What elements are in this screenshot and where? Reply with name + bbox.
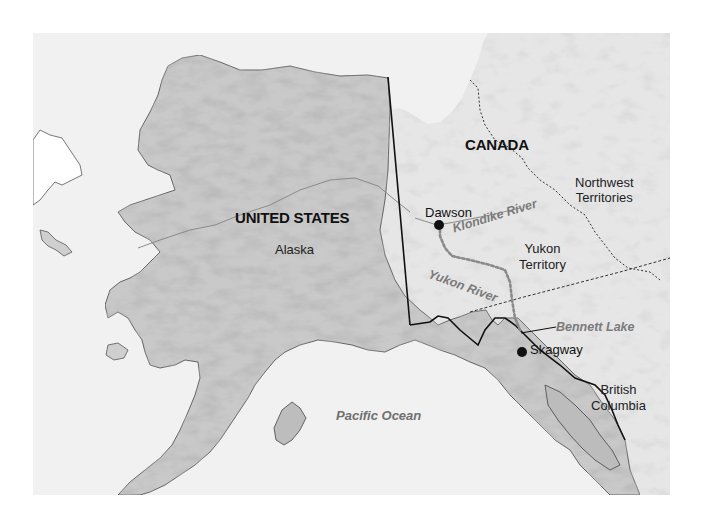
label-nwt: Northwest Territories [575,176,634,204]
label-yukon-territory: Yukon Territory [519,242,566,271]
label-yukon-line2: Territory [519,258,566,271]
russia-coast [33,130,82,205]
map-graphic [33,33,670,495]
dawson-dot [434,220,444,230]
label-nwt-line1: Northwest [575,176,634,189]
label-bc-line1: British [591,383,646,396]
label-nwt-line2: Territories [575,191,634,204]
label-bc-line2: Columbia [591,399,646,412]
label-canada: CANADA [465,137,529,152]
nunivak-island [106,343,128,360]
label-bennett-lake: Bennett Lake [556,321,635,334]
skagway-dot [517,347,527,357]
label-skagway: Skagway [530,343,583,356]
kodiak-island [274,402,306,445]
label-pacific-ocean: Pacific Ocean [336,409,421,422]
label-british-columbia: British Columbia [591,383,646,412]
label-yukon-line1: Yukon [519,242,566,255]
label-alaska: Alaska [275,243,314,256]
map-frame: UNITED STATES CANADA Alaska Northwest Te… [33,33,670,495]
label-united-states: UNITED STATES [235,210,349,225]
st-lawrence-island [40,230,72,256]
